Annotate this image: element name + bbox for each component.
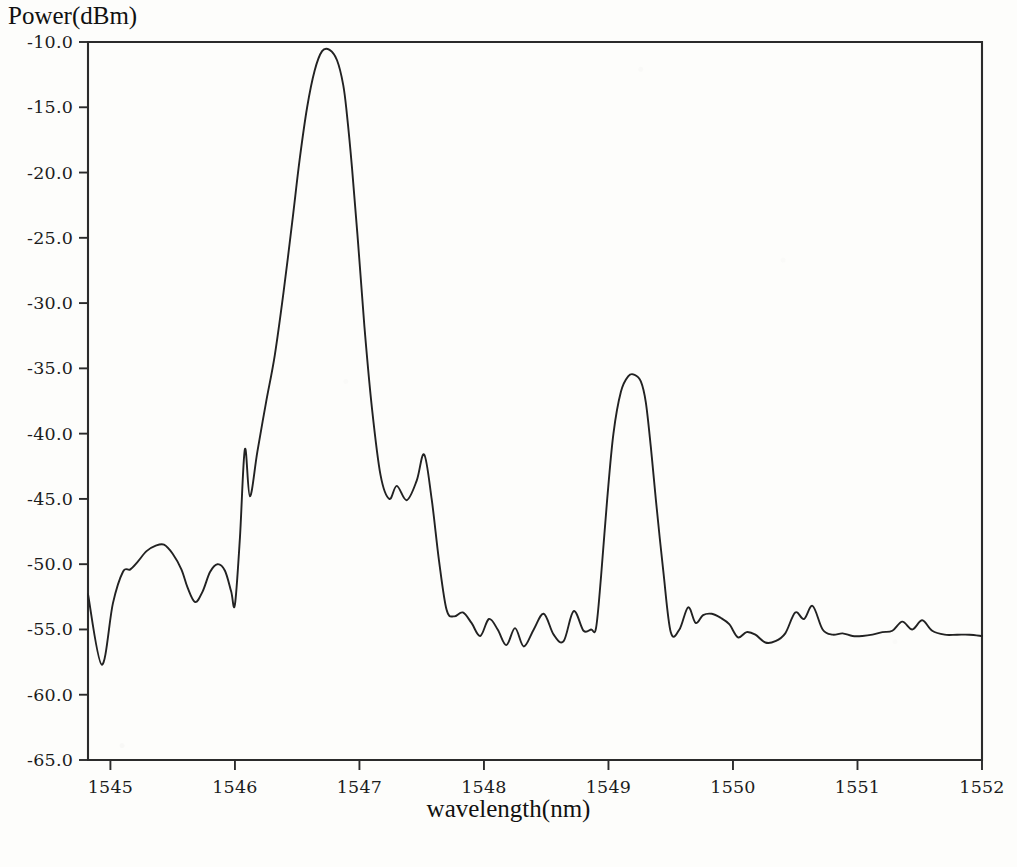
x-tick-label: 1551: [835, 777, 880, 797]
y-tick-label: -45.0: [27, 489, 73, 509]
y-tick-label: -65.0: [27, 750, 73, 770]
y-tick-label: -35.0: [27, 358, 73, 378]
spectrum-trace: [88, 49, 982, 665]
y-tick-label: -60.0: [27, 685, 73, 705]
x-tick-label: 1545: [88, 777, 133, 797]
y-tick-label: -20.0: [27, 163, 73, 183]
x-tick-label: 1550: [710, 777, 755, 797]
x-tick-group: 15451546154715481549155015511552: [88, 760, 1005, 797]
series-group: [88, 49, 982, 665]
y-tick-label: -10.0: [27, 32, 73, 52]
y-tick-label: -25.0: [27, 228, 73, 248]
spectrum-plot: -10.0-15.0-20.0-25.0-30.0-35.0-40.0-45.0…: [0, 0, 1017, 867]
y-tick-label: -30.0: [27, 293, 73, 313]
x-tick-label: 1552: [959, 777, 1004, 797]
y-tick-label: -15.0: [27, 97, 73, 117]
x-tick-label: 1546: [212, 777, 257, 797]
y-tick-label: -40.0: [27, 424, 73, 444]
axes-group: [88, 42, 982, 760]
y-tick-label: -55.0: [27, 619, 73, 639]
y-tick-label: -50.0: [27, 554, 73, 574]
x-tick-label: 1548: [461, 777, 506, 797]
x-tick-label: 1547: [337, 777, 382, 797]
y-tick-group: -10.0-15.0-20.0-25.0-30.0-35.0-40.0-45.0…: [27, 32, 88, 770]
x-axis-title: wavelength(nm): [0, 795, 1017, 823]
x-tick-label: 1549: [586, 777, 631, 797]
chart-page: Power(dBm) -10.0-15.0-20.0-25.0-30.0-35.…: [0, 0, 1017, 867]
axis-frame: [88, 42, 982, 760]
